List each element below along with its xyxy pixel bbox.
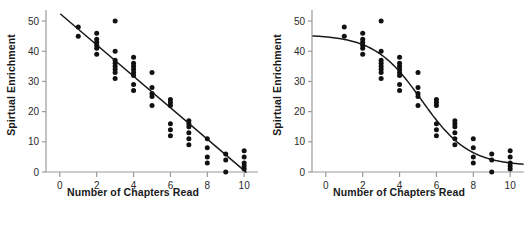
- data-point: [360, 46, 365, 51]
- data-point: [379, 19, 384, 24]
- data-point: [94, 31, 99, 36]
- y-tick-label: 0: [299, 167, 305, 178]
- data-point: [205, 136, 210, 141]
- data-point: [113, 70, 118, 75]
- data-point: [242, 166, 247, 171]
- data-point: [150, 103, 155, 108]
- data-point: [342, 34, 347, 39]
- data-point: [489, 157, 494, 162]
- data-point: [113, 49, 118, 54]
- data-point: [76, 34, 81, 39]
- data-point: [471, 136, 476, 141]
- data-point: [242, 148, 247, 153]
- y-tick-label: 50: [294, 16, 306, 27]
- data-point: [397, 73, 402, 78]
- panel-right: 010203040500246810 Spirtual Enrichment N…: [266, 0, 532, 225]
- data-point: [113, 19, 118, 24]
- data-point: [186, 142, 191, 147]
- data-point: [471, 160, 476, 165]
- data-point: [397, 88, 402, 93]
- data-point: [397, 82, 402, 87]
- data-point: [379, 49, 384, 54]
- y-tick-label: 40: [294, 46, 306, 57]
- y-tick-label: 40: [28, 46, 40, 57]
- data-point: [223, 170, 228, 175]
- data-point: [434, 103, 439, 108]
- data-point: [360, 52, 365, 57]
- fitted-sigmoid-curve: [313, 36, 523, 164]
- x-axis-title-left: Number of Chapters Read: [0, 186, 266, 198]
- y-tick-label: 50: [28, 16, 40, 27]
- y-tick-label: 30: [28, 76, 40, 87]
- data-point: [416, 70, 421, 75]
- data-point: [379, 70, 384, 75]
- y-tick-label: 10: [294, 136, 306, 147]
- data-point: [131, 88, 136, 93]
- data-point: [416, 103, 421, 108]
- y-axis-title-left-text: Spirtual Enrichment: [5, 34, 17, 136]
- data-point: [434, 127, 439, 132]
- data-point: [508, 166, 513, 171]
- data-point: [452, 130, 457, 135]
- data-point: [186, 124, 191, 129]
- data-point: [360, 31, 365, 36]
- data-point: [131, 82, 136, 87]
- data-point: [168, 103, 173, 108]
- data-point: [508, 148, 513, 153]
- data-point: [452, 142, 457, 147]
- data-point: [379, 76, 384, 81]
- data-point: [186, 130, 191, 135]
- data-point: [434, 133, 439, 138]
- data-point: [168, 133, 173, 138]
- data-point: [397, 55, 402, 60]
- data-point: [76, 25, 81, 30]
- data-point: [471, 145, 476, 150]
- y-tick-label: 30: [294, 76, 306, 87]
- y-tick-label: 10: [28, 136, 40, 147]
- data-point: [168, 127, 173, 132]
- data-point: [150, 94, 155, 99]
- data-point: [131, 55, 136, 60]
- y-tick-label: 20: [294, 106, 306, 117]
- data-point: [489, 151, 494, 156]
- data-point: [205, 154, 210, 159]
- data-point: [150, 70, 155, 75]
- y-tick-label: 20: [28, 106, 40, 117]
- data-point: [131, 73, 136, 78]
- data-point: [508, 154, 513, 159]
- data-point: [434, 121, 439, 126]
- x-axis-title-right: Number of Chapters Read: [266, 186, 532, 198]
- data-point: [452, 124, 457, 129]
- data-point: [489, 170, 494, 175]
- data-point: [416, 85, 421, 90]
- data-point: [205, 145, 210, 150]
- data-point: [416, 94, 421, 99]
- data-point: [223, 157, 228, 162]
- data-point: [168, 121, 173, 126]
- panel-left: 010203040500246810 Spirtual Enrichment N…: [0, 0, 266, 225]
- y-axis-title-right: Spirtual Enrichment: [268, 0, 286, 170]
- data-point: [242, 154, 247, 159]
- data-point: [342, 25, 347, 30]
- y-tick-label: 0: [33, 167, 39, 178]
- data-point: [150, 85, 155, 90]
- data-point: [186, 136, 191, 141]
- data-point: [205, 160, 210, 165]
- data-point: [223, 151, 228, 156]
- figure-two-panel-scatter: 010203040500246810 Spirtual Enrichment N…: [0, 0, 532, 225]
- data-point: [471, 154, 476, 159]
- data-point: [94, 52, 99, 57]
- data-point: [113, 76, 118, 81]
- data-point: [94, 46, 99, 51]
- data-point: [452, 136, 457, 141]
- y-axis-title-right-text: Spirtual Enrichment: [271, 34, 283, 136]
- y-axis-title-left: Spirtual Enrichment: [2, 0, 20, 170]
